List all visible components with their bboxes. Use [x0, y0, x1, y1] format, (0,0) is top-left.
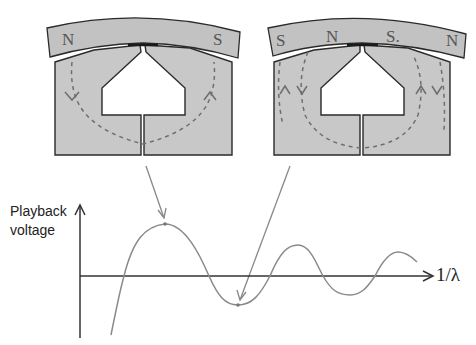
left-tape: [47, 18, 240, 58]
x-axis-label: 1/λ: [436, 264, 460, 286]
max-point-marker: [163, 222, 167, 226]
right-pole-s2: S.: [386, 27, 400, 46]
right-pole-n2: N: [446, 31, 458, 50]
y-axis-label-line1: Playback: [10, 202, 67, 221]
playback-voltage-curve: [111, 224, 417, 335]
right-pole-n1: N: [326, 27, 338, 46]
y-axis-label-line2: voltage: [10, 221, 67, 240]
right-playback-head: S N S. N: [268, 18, 466, 155]
min-point-marker: [236, 303, 240, 307]
right-core-left-half: [274, 45, 360, 155]
left-pole-s: S: [213, 30, 222, 49]
y-axis-label: Playback voltage: [10, 202, 67, 240]
left-playback-head: N S: [47, 18, 240, 155]
left-pole-n: N: [62, 30, 74, 49]
diagram-canvas: N S S N S. N: [0, 0, 476, 345]
right-pointer-arrow: [240, 166, 290, 300]
left-pointer-arrow: [146, 166, 164, 218]
left-core-right-half: [144, 45, 232, 155]
right-core-right-half: [363, 45, 450, 155]
graph-axes: [75, 205, 433, 338]
left-core-left-half: [55, 45, 141, 155]
right-pole-s1: S: [276, 31, 285, 50]
